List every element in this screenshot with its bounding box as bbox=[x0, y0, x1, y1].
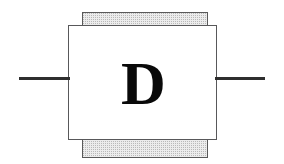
component-label-d: D bbox=[69, 26, 218, 141]
diagram-canvas: D bbox=[0, 0, 284, 164]
left-terminal-lead bbox=[19, 77, 70, 80]
bottom-shaded-band bbox=[82, 139, 208, 158]
right-terminal-lead bbox=[215, 77, 265, 80]
component-body-rectangle: D bbox=[68, 25, 217, 140]
